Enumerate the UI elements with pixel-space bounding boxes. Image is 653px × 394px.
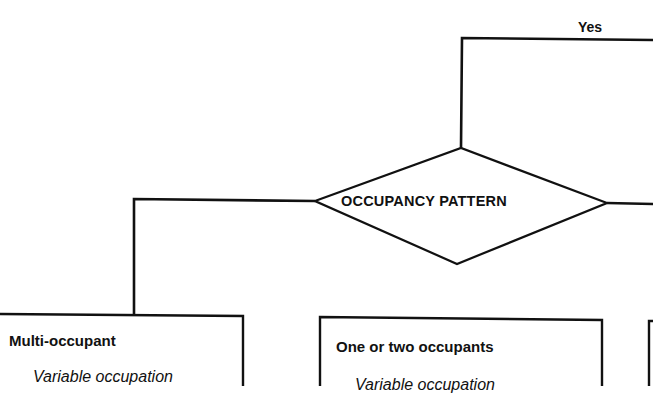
outcome-title: Multi-occupant	[9, 332, 116, 349]
yes-connector	[461, 38, 653, 148]
yes-branch-label: Yes	[578, 19, 602, 35]
box-third-border	[649, 321, 653, 386]
outcome-body: Variable occupation	[355, 376, 495, 394]
outcome-body: Variable occupation	[33, 368, 173, 386]
left-branch-connector	[134, 199, 315, 315]
decision-label: OCCUPANCY PATTERN	[341, 193, 507, 209]
right-branch-connector	[607, 203, 653, 204]
outcome-title: One or two occupants	[336, 338, 494, 355]
